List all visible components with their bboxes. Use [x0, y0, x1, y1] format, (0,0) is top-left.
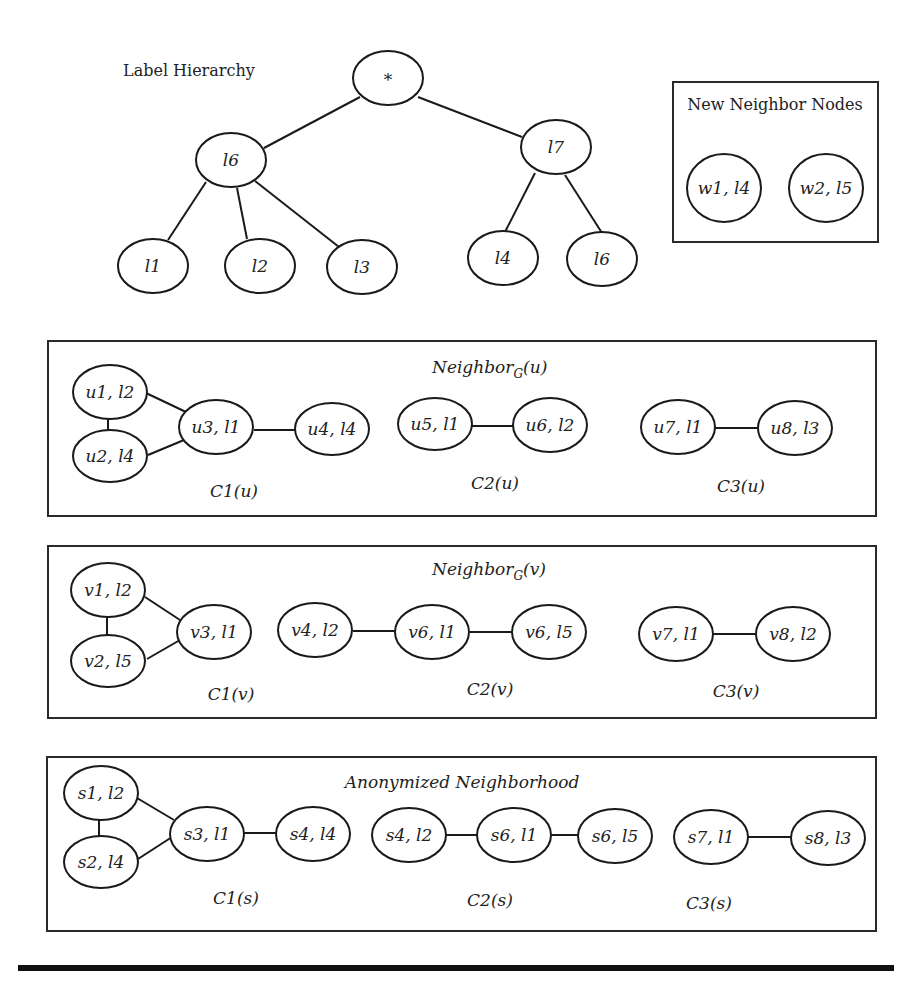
edge-u1-u3 [146, 393, 186, 412]
component-label-c1v: C1(v) [208, 684, 255, 704]
edge-l6-l2 [237, 188, 247, 239]
svg-text:v4, l2: v4, l2 [291, 620, 338, 640]
graph-node-v4: v4, l2 [278, 603, 352, 657]
edge-l6-l3 [255, 181, 339, 247]
graph-node-u3: u3, l1 [179, 400, 253, 454]
component-label-c1u: C1(u) [210, 481, 258, 501]
graph-node-u7: u7, l1 [641, 400, 715, 454]
label-hierarchy-title: Label Hierarchy [123, 61, 255, 80]
svg-text:u7, l1: u7, l1 [654, 417, 703, 437]
component-label-c1s: C1(s) [213, 888, 259, 908]
svg-text:v8, l2: v8, l2 [769, 624, 816, 644]
component-label-c2v: C2(v) [467, 679, 514, 699]
hierarchy-node-l7: l7 [521, 120, 591, 174]
graph-node-v1: v1, l2 [71, 563, 145, 617]
svg-text:u3, l1: u3, l1 [192, 417, 241, 437]
svg-text:u2, l4: u2, l4 [86, 446, 135, 466]
svg-text:s4, l2: s4, l2 [386, 825, 433, 845]
svg-text:l7: l7 [548, 137, 564, 157]
graph-node-v6a: v6, l1 [395, 605, 469, 659]
new-neighbor-nodes-title: New Neighbor Nodes [687, 95, 863, 114]
component-label-c2u: C2(u) [471, 473, 519, 493]
graph-node-s2: s2, l4 [64, 836, 138, 888]
svg-text:s8, l3: s8, l3 [805, 828, 852, 848]
svg-text:u8, l3: u8, l3 [771, 418, 820, 438]
graph-node-s6b: s6, l5 [578, 809, 652, 863]
svg-text:l4: l4 [495, 248, 511, 268]
svg-text:v2, l5: v2, l5 [84, 651, 131, 671]
hierarchy-node-l6b: l6 [567, 232, 637, 286]
edge-v1-v3 [145, 597, 180, 620]
component-label-c2s: C2(s) [467, 890, 513, 910]
component-label-c3u: C3(u) [717, 476, 765, 496]
graph-node-s4: s4, l4 [276, 807, 350, 861]
svg-text:s1, l2: s1, l2 [78, 783, 125, 803]
svg-text:w2, l5: w2, l5 [800, 178, 852, 198]
edge-s2-s3 [138, 837, 172, 859]
new-node-w1: w1, l4 [687, 154, 761, 222]
hierarchy-node-root: * [353, 51, 423, 105]
graph-node-v2: v2, l5 [71, 635, 145, 687]
hierarchy-node-l3: l3 [327, 240, 397, 294]
edge-s1-s3 [137, 798, 174, 820]
svg-text:s3, l1: s3, l1 [184, 824, 231, 844]
graph-node-u4: u4, l4 [295, 403, 369, 455]
graph-node-s7: s7, l1 [674, 810, 748, 864]
graph-node-s8: s8, l3 [791, 811, 865, 865]
neighbor-u-panel: NeighborG(u) u1, l2 u2, l4 u3, l1 u4, l4… [48, 341, 876, 516]
edge-root-l6 [264, 97, 360, 148]
hierarchy-node-l6: l6 [196, 133, 266, 187]
svg-text:u6, l2: u6, l2 [526, 415, 575, 435]
graph-node-u8: u8, l3 [758, 401, 832, 455]
svg-text:u4, l4: u4, l4 [308, 419, 357, 439]
svg-text:v6, l1: v6, l1 [408, 622, 455, 642]
neighbor-u-title: NeighborG(u) [431, 357, 547, 381]
hierarchy-node-l4: l4 [468, 231, 538, 285]
svg-text:s6, l5: s6, l5 [592, 826, 639, 846]
svg-text:l6: l6 [594, 249, 610, 269]
svg-text:l2: l2 [252, 256, 268, 276]
graph-node-v3: v3, l1 [177, 605, 251, 659]
graph-node-u2: u2, l4 [73, 430, 147, 482]
edge-u2-u3 [148, 440, 184, 455]
svg-text:v1, l2: v1, l2 [84, 580, 131, 600]
bottom-rule-divider [18, 965, 894, 971]
edge-v2-v3 [147, 640, 180, 659]
component-label-c3s: C3(s) [686, 893, 732, 913]
svg-text:s7, l1: s7, l1 [688, 827, 735, 847]
label-hierarchy: Label Hierarchy * l6 l7 l1 l2 [118, 51, 637, 294]
edge-l7-l6b [565, 175, 602, 233]
new-node-w2: w2, l5 [789, 154, 863, 222]
svg-text:v6, l5: v6, l5 [525, 622, 572, 642]
new-neighbor-nodes-panel: New Neighbor Nodes w1, l4 w2, l5 [673, 82, 878, 242]
edge-l6-l1 [168, 182, 206, 240]
edge-root-l7 [418, 97, 522, 137]
svg-text:u5, l1: u5, l1 [411, 414, 460, 434]
graph-node-v6b: v6, l5 [512, 605, 586, 659]
hierarchy-node-l1: l1 [118, 239, 188, 293]
graph-node-u1: u1, l2 [73, 365, 147, 419]
component-label-c3v: C3(v) [713, 681, 760, 701]
svg-text:l6: l6 [223, 150, 239, 170]
svg-text:u1, l2: u1, l2 [86, 382, 135, 402]
graph-node-s1: s1, l2 [64, 766, 138, 820]
svg-text:l1: l1 [145, 256, 161, 276]
graph-node-v8: v8, l2 [756, 607, 830, 661]
svg-text:*: * [384, 70, 393, 90]
anonymized-title: Anonymized Neighborhood [343, 772, 580, 792]
graph-node-s6: s6, l1 [477, 808, 551, 862]
svg-text:v3, l1: v3, l1 [190, 622, 237, 642]
graph-node-u5: u5, l1 [398, 398, 472, 450]
graph-node-v7: v7, l1 [639, 607, 713, 661]
svg-text:s4, l4: s4, l4 [290, 824, 337, 844]
diagram-canvas: Label Hierarchy * l6 l7 l1 l2 [0, 0, 923, 981]
svg-text:s2, l4: s2, l4 [78, 852, 125, 872]
graph-node-u6: u6, l2 [513, 398, 587, 452]
edge-l7-l4 [505, 173, 535, 232]
neighbor-v-panel: NeighborG(v) v1, l2 v2, l5 v3, l1 v4, l2… [48, 546, 876, 718]
graph-node-s4b: s4, l2 [372, 808, 446, 862]
neighbor-v-title: NeighborG(v) [431, 559, 546, 583]
svg-text:w1, l4: w1, l4 [698, 178, 750, 198]
svg-text:s6, l1: s6, l1 [491, 825, 538, 845]
graph-node-s3: s3, l1 [170, 807, 244, 861]
